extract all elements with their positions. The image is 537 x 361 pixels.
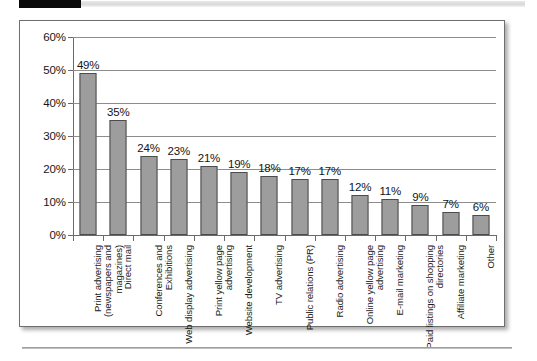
bar-value-label: 35% [107,106,129,118]
x-axis-category-label: Website development [244,245,254,355]
bar[interactable] [80,73,97,235]
bar-slot: 18% [254,37,284,235]
x-axis-category-label: Affiliate marketing [456,245,466,355]
x-tick [405,235,406,241]
x-tick [224,235,225,241]
bar-slot: 21% [194,37,224,235]
x-tick [73,235,74,241]
x-axis-category-label: TV advertising [274,245,284,355]
x-tick [194,235,195,241]
black-tab-marker [19,0,81,8]
plot-area: 0%10%20%30%40%50%60% 49%35%24%23%21%19%1… [73,37,496,235]
bar-value-label: 24% [137,142,159,154]
y-axis-tick-label: 20% [43,163,66,175]
bar-slot: 12% [345,37,375,235]
bar-value-label: 17% [319,165,341,177]
bar-value-label: 11% [379,185,401,197]
bar-value-label: 6% [473,201,489,213]
bottom-rule [22,347,512,349]
x-tick [133,235,134,241]
bar[interactable] [442,212,459,235]
x-axis-category-label: Conferences and Exhibitions [154,245,175,355]
bar[interactable] [382,199,399,235]
bar[interactable] [472,215,489,235]
x-axis-category-label: Direct mail [123,245,133,355]
bar-slot: 35% [103,37,133,235]
bar[interactable] [291,179,308,235]
y-axis-tick-label: 10% [43,196,66,208]
x-tick [496,235,497,241]
bar-value-label: 9% [412,191,428,203]
x-tick [436,235,437,241]
bar-value-label: 23% [168,145,190,157]
x-axis-category-label: Web display advertising [184,245,194,355]
bar[interactable] [200,166,217,235]
bar-value-label: 18% [258,162,280,174]
x-tick [315,235,316,241]
bar-slot: 23% [164,37,194,235]
bar-value-label: 49% [77,59,99,71]
x-axis-category-label: Paid listings on shopping directories [425,245,446,355]
x-axis-category-label: Other [486,245,496,355]
bar-slot: 7% [436,37,466,235]
chart-figure: 0%10%20%30%40%50%60% 49%35%24%23%21%19%1… [19,20,505,327]
gray-header-rule [81,1,525,7]
bar[interactable] [261,176,278,235]
bar[interactable] [352,195,369,235]
bar-value-label: 12% [349,181,371,193]
bar-value-label: 19% [228,158,250,170]
bar-slot: 6% [466,37,496,235]
y-axis-tick-label: 0% [50,229,66,241]
bar-value-label: 21% [198,152,220,164]
bar-slot: 17% [285,37,315,235]
x-tick [375,235,376,241]
x-tick [254,235,255,241]
bar-slot: 17% [315,37,345,235]
bar[interactable] [231,172,248,235]
x-axis-category-label: E-mail marketing [395,245,405,355]
bar[interactable] [140,156,157,235]
bar-slot: 11% [375,37,405,235]
bar-value-label: 17% [288,165,310,177]
bar[interactable] [321,179,338,235]
x-tick [345,235,346,241]
x-axis-category-label: Online yellow page advertising [365,245,386,355]
bar[interactable] [412,205,429,235]
bar-slot: 9% [405,37,435,235]
x-axis-category-label: Radio advertising [335,245,345,355]
bar[interactable] [170,159,187,235]
y-axis-tick-label: 60% [43,31,66,43]
bar[interactable] [110,120,127,236]
bar-slot: 49% [73,37,103,235]
x-tick [285,235,286,241]
x-tick [103,235,104,241]
bar-value-label: 7% [443,198,459,210]
bar-slot: 19% [224,37,254,235]
x-axis-category-label: Print advertising (newspapers and magazi… [93,245,124,355]
x-tick [164,235,165,241]
x-axis-category-label: Public relations (PR) [305,245,315,355]
bar-slot: 24% [133,37,163,235]
y-axis-tick-label: 50% [43,64,66,76]
x-tick [466,235,467,241]
y-axis-tick-label: 40% [43,97,66,109]
y-axis-tick-label: 30% [43,130,66,142]
top-decorative-strip [0,0,537,9]
x-axis-category-label: Print yellow page advertising [214,245,235,355]
